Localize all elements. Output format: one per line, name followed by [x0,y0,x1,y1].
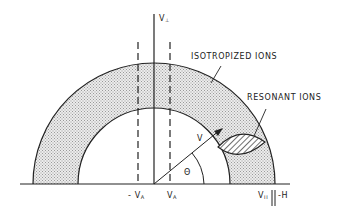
parallel-h-label: -H [278,191,288,200]
resonant-ions-label: RESONANT IONS [247,93,321,102]
velocity-space-diagram [0,0,337,217]
minus-va-label: - VA [128,191,145,200]
v-perp-label: V⊥ [159,14,170,23]
velocity-label: V [197,134,203,143]
v-parallel-label: VII [258,191,268,200]
va-label: VA [167,191,177,200]
theta-arc [192,153,204,184]
isotropized-ions-label: ISOTROPIZED IONS [191,52,277,61]
theta-label: Θ [184,168,191,177]
